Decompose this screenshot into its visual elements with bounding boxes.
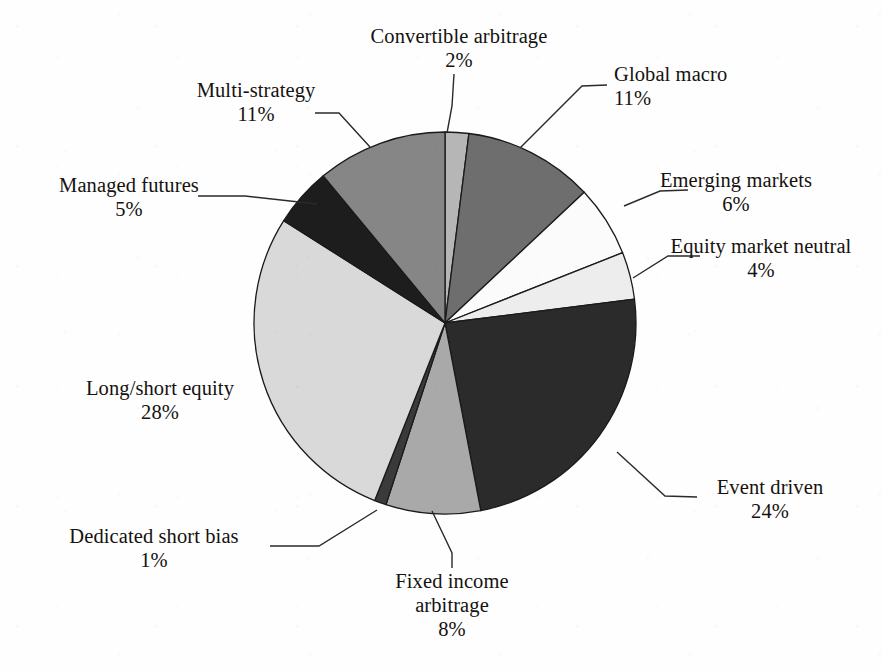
label-emerging-markets: Emerging markets 6% [620,168,852,216]
label-managed-futures-name: Managed futures [28,173,230,197]
label-convertible-arbitrage-name: Convertible arbitrage [349,24,569,48]
label-long-short-equity-value: 28% [55,400,265,424]
label-event-driven: Event driven 24% [686,475,854,523]
label-global-macro-value: 11% [614,86,804,110]
label-fixed-income-arbitrage: Fixed income arbitrage 8% [352,569,552,642]
label-global-macro-name: Global macro [614,62,804,86]
label-equity-market-neutral-name: Equity market neutral [639,234,883,258]
label-fixed-income-arbitrage-name-line1: Fixed income [352,569,552,593]
label-equity-market-neutral: Equity market neutral 4% [639,234,883,282]
leader-line-global-macro [520,85,607,148]
label-equity-market-neutral-value: 4% [639,258,883,282]
leader-line-convertible-arbitrage [447,74,454,133]
label-fixed-income-arbitrage-name-line2: arbitrage [352,593,552,617]
label-dedicated-short-bias-value: 1% [38,548,270,572]
label-managed-futures-value: 5% [28,197,230,221]
label-dedicated-short-bias-name: Dedicated short bias [38,524,270,548]
label-event-driven-name: Event driven [686,475,854,499]
label-multi-strategy: Multi-strategy 11% [166,78,346,126]
label-dedicated-short-bias: Dedicated short bias 1% [38,524,270,572]
pie-slice-group [254,132,636,514]
label-long-short-equity: Long/short equity 28% [55,376,265,424]
label-long-short-equity-name: Long/short equity [55,376,265,400]
label-fixed-income-arbitrage-value: 8% [352,617,552,641]
label-emerging-markets-name: Emerging markets [620,168,852,192]
chart-canvas: Convertible arbitrage 2% Global macro 11… [0,0,883,670]
label-global-macro: Global macro 11% [614,62,804,110]
label-event-driven-value: 24% [686,499,854,523]
label-managed-futures: Managed futures 5% [28,173,230,221]
label-emerging-markets-value: 6% [620,192,852,216]
label-convertible-arbitrage: Convertible arbitrage 2% [349,24,569,72]
leader-line-event-driven [617,452,697,497]
label-multi-strategy-value: 11% [166,102,346,126]
leader-line-dedicated-short-bias [270,510,377,546]
label-multi-strategy-name: Multi-strategy [166,78,346,102]
leader-line-fixed-income-arbitrage [432,511,452,568]
label-convertible-arbitrage-value: 2% [349,48,569,72]
